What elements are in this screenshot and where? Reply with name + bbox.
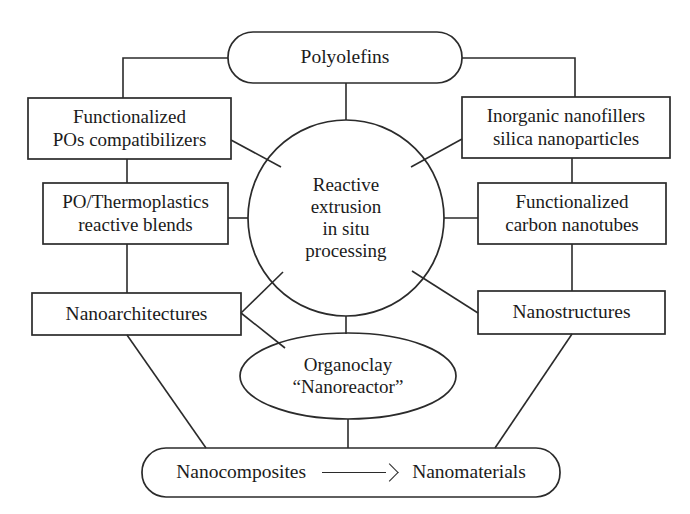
node-outcome-nanomaterials-label: Nanomaterials (412, 461, 526, 484)
node-center-process-line-1: Reactive (256, 174, 436, 196)
node-outcome[interactable]: Nanocomposites Nanomaterials (142, 448, 560, 497)
node-center-process-line-3: in situ (256, 218, 436, 240)
arrow-right-icon (322, 463, 396, 482)
edge-nanoarchitectures-to-outcome (127, 335, 206, 448)
node-organoclay-line-1: Organoclay (262, 354, 434, 376)
node-center-process-line-4: processing (256, 240, 436, 262)
node-po-thermoplastics-line-2: reactive blends (43, 214, 228, 236)
node-functionalized-pos-line-2: POs compatibilizers (28, 129, 231, 151)
node-nanostructures[interactable]: Nanostructures (478, 291, 665, 334)
node-center-process-line-2: extrusion (256, 196, 436, 218)
edge-polyolefins-to-right-column (462, 58, 575, 97)
node-center-process[interactable]: Reactive extrusion in situ processing (256, 140, 436, 296)
edge-nanoarchitectures-to-organoclay (241, 313, 285, 348)
node-functionalized-pos-line-1: Functionalized (28, 106, 231, 128)
node-po-thermoplastics[interactable]: PO/Thermoplastics reactive blends (43, 183, 228, 244)
node-nanostructures-line-1: Nanostructures (478, 301, 665, 324)
diagram-canvas: Polyolefins Functionalized POs compatibi… (0, 0, 690, 514)
node-functionalized-pos[interactable]: Functionalized POs compatibilizers (28, 98, 231, 159)
node-nanoarchitectures[interactable]: Nanoarchitectures (32, 293, 241, 335)
node-outcome-nanocomposites-label: Nanocomposites (176, 461, 306, 484)
edge-nanostructures-to-outcome (495, 334, 572, 448)
edge-polyolefins-to-left-column (123, 58, 228, 98)
node-functionalized-carbon-nanotubes[interactable]: Functionalized carbon nanotubes (478, 183, 666, 244)
node-organoclay-line-2: “Nanoreactor” (262, 376, 434, 398)
node-inorganic-nanofillers[interactable]: Inorganic nanofillers silica nanoparticl… (462, 97, 670, 158)
node-nanoarchitectures-line-1: Nanoarchitectures (32, 303, 241, 326)
node-organoclay[interactable]: Organoclay “Nanoreactor” (262, 347, 434, 405)
node-functionalized-carbon-nanotubes-line-1: Functionalized (478, 191, 666, 213)
node-po-thermoplastics-line-1: PO/Thermoplastics (43, 191, 228, 213)
node-polyolefins[interactable]: Polyolefins (228, 32, 462, 83)
node-polyolefins-line-1: Polyolefins (228, 46, 462, 69)
node-inorganic-nanofillers-line-1: Inorganic nanofillers (462, 105, 670, 127)
node-inorganic-nanofillers-line-2: silica nanoparticles (462, 128, 670, 150)
node-functionalized-carbon-nanotubes-line-2: carbon nanotubes (478, 214, 666, 236)
